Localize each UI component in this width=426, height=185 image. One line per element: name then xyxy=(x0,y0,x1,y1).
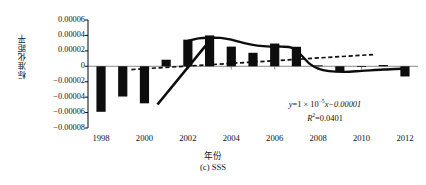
x-axis-title: 年份 xyxy=(0,149,426,161)
figure-caption: (c) SSS xyxy=(0,162,426,172)
x-axis-tick-label: 1998 xyxy=(81,134,121,143)
x-axis-tick-label: 2008 xyxy=(298,134,338,143)
x-axis-tick-label: 2004 xyxy=(211,134,251,143)
r-squared-line: R2=0.0401 xyxy=(252,110,398,124)
x-axis-tick-label: 2012 xyxy=(385,134,425,143)
x-axis-tick-label: 2010 xyxy=(342,134,382,143)
regression-equation: y=1 × 10−5x−0.00001 xyxy=(252,96,398,110)
equation-body: =1 × 10 xyxy=(292,100,318,109)
x-axis-tick-label: 2000 xyxy=(124,134,164,143)
chart-figure: 标准化距平 0.000060.000040.000020−0.00002−0.0… xyxy=(0,0,426,185)
r-squared-value: =0.0401 xyxy=(315,114,343,123)
x-axis-tick-label: 2006 xyxy=(255,134,295,143)
equation-suffix: x−0.00001 xyxy=(325,100,362,109)
regression-annotation: y=1 × 10−5x−0.00001 R2=0.0401 xyxy=(252,96,398,125)
x-axis-tick-label: 2002 xyxy=(168,134,208,143)
